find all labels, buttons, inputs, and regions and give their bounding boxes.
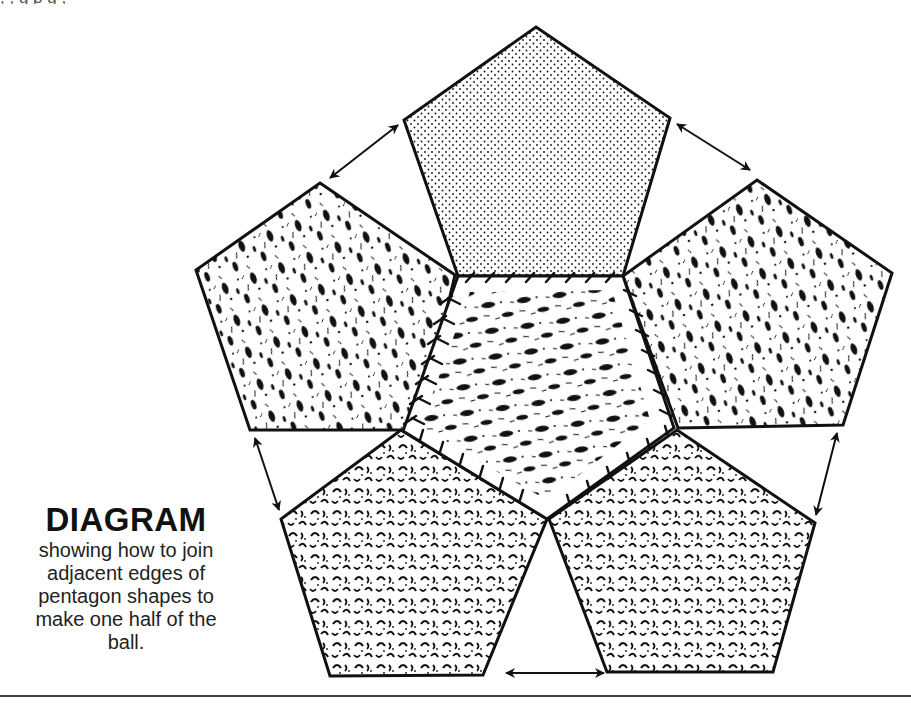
pentagon-right	[623, 180, 892, 428]
arrow-right-bottom	[816, 433, 837, 515]
arrow-top-right	[677, 124, 750, 170]
caption-line: showing how to join	[0, 539, 252, 562]
caption-line: make one half of the	[0, 608, 252, 631]
caption-line: adjacent edges of	[0, 562, 252, 585]
pentagon-top	[404, 27, 670, 276]
arrow-top-left	[330, 125, 398, 178]
caption-title: DIAGRAM	[0, 502, 252, 538]
caption-line: ball.	[0, 631, 252, 654]
caption-line: pentagon shapes to	[0, 585, 252, 608]
diagram-caption: DIAGRAM showing how to join adjacent edg…	[0, 502, 252, 654]
caption-body: showing how to join adjacent edges of pe…	[0, 539, 252, 654]
bottom-divider	[0, 695, 911, 697]
arrow-left-bottom	[255, 438, 279, 510]
